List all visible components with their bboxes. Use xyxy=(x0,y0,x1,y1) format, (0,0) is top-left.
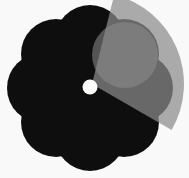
image-canvas: Flower shape with translucent gray overl… xyxy=(0,0,189,178)
grain-overlay xyxy=(0,0,189,178)
flower-graphic xyxy=(0,0,189,178)
